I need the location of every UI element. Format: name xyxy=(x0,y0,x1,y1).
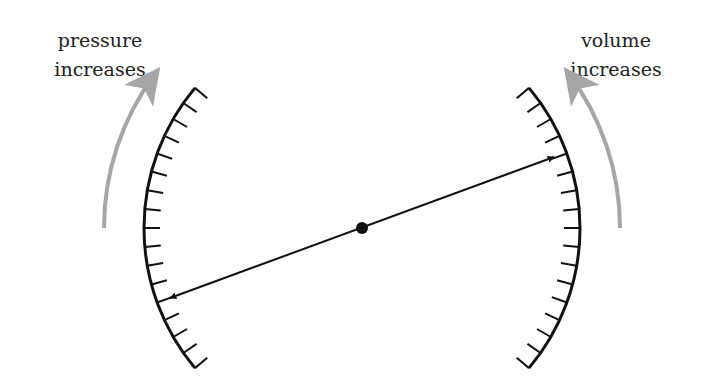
scale-tick xyxy=(557,280,572,284)
scale-tick xyxy=(173,119,187,127)
scale-tick xyxy=(557,172,572,176)
scale-tick xyxy=(173,329,187,337)
scale-tick xyxy=(545,136,560,143)
scale-tick xyxy=(164,136,179,143)
scale-tick xyxy=(183,103,196,112)
pivot-dot-icon xyxy=(356,222,368,234)
scale-tick xyxy=(145,246,161,247)
scale-tick xyxy=(552,297,567,302)
scale-tick xyxy=(563,209,579,210)
scale-tick xyxy=(145,209,161,210)
scale-tick xyxy=(517,358,529,368)
scale-tick xyxy=(527,103,540,112)
scale-tick xyxy=(517,88,529,98)
pressure-scale xyxy=(144,88,207,368)
scale-tick xyxy=(552,153,567,158)
scale-tick xyxy=(563,246,579,247)
scale-tick xyxy=(561,190,577,193)
scale-tick xyxy=(561,263,577,266)
scale-tick xyxy=(527,344,540,353)
pressure-increase-arrow-icon xyxy=(104,73,156,228)
scale-tick xyxy=(151,280,166,284)
scale-tick xyxy=(195,358,207,368)
scale-tick xyxy=(183,344,196,353)
scale-tick xyxy=(164,313,179,320)
gauge-diagram xyxy=(0,0,709,387)
scale-tick xyxy=(537,119,551,127)
volume-increase-arrow-icon xyxy=(568,73,620,228)
scale-tick xyxy=(545,313,560,320)
scale-tick xyxy=(157,153,172,158)
scale-tick xyxy=(157,297,172,302)
scale-tick xyxy=(195,88,207,98)
scale-tick xyxy=(147,190,163,193)
scale-tick xyxy=(147,263,163,266)
scale-tick xyxy=(537,329,551,337)
scale-tick xyxy=(151,172,166,176)
volume-scale xyxy=(517,88,580,368)
